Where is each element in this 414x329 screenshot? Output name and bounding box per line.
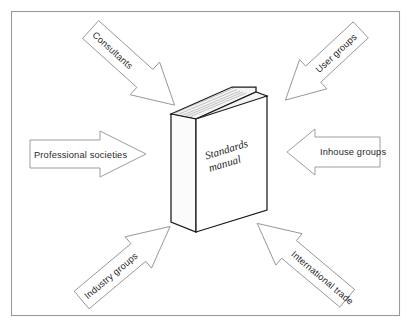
arrow-inhouse-groups-label: Inhouse groups	[320, 147, 386, 157]
standards-manual-book: Standards manual	[171, 87, 267, 232]
diagram-canvas: Professional societies Inhouse groups Co…	[0, 0, 414, 329]
arrow-professional-societies-label: Professional societies	[34, 150, 127, 160]
influences-diagram: Professional societies Inhouse groups Co…	[0, 0, 414, 329]
book-spine	[171, 114, 196, 232]
